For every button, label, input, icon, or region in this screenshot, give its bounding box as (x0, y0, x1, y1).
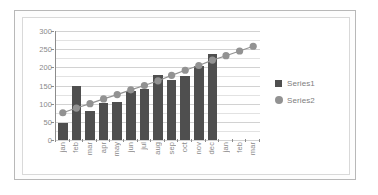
x-tick-label: jan (221, 142, 230, 152)
x-tick-label: feb (235, 142, 244, 153)
x-tick-mark (177, 139, 178, 142)
bar (167, 80, 177, 140)
chart-frame: 050100150200250300 janfebmaraprmayjunjul… (14, 10, 356, 180)
x-tick-mark (245, 139, 246, 142)
legend-label-series2: Series2 (287, 96, 315, 105)
y-tick-mark (51, 122, 54, 123)
y-tick-mark (51, 49, 54, 50)
x-tick-label: feb (71, 142, 80, 153)
bar (180, 76, 190, 140)
y-tick-mark (51, 86, 54, 87)
bar (153, 75, 163, 140)
y-tick-mark (51, 104, 54, 105)
series2-marker (168, 72, 175, 79)
bar (72, 86, 82, 140)
x-tick-label: nov (194, 142, 203, 154)
gridline (56, 67, 260, 68)
x-axis: janfebmaraprmayjunjulaugsepoctnovdecjanf… (55, 142, 259, 174)
x-tick-mark (109, 139, 110, 142)
series2-marker (100, 95, 107, 102)
x-tick-mark (232, 139, 233, 142)
x-tick-mark (96, 139, 97, 142)
x-tick-mark (55, 139, 56, 142)
bar (126, 91, 136, 140)
gridline (56, 58, 260, 59)
chart-plot-container: 050100150200250300 janfebmaraprmayjunjul… (22, 17, 350, 175)
x-tick-mark (69, 139, 70, 142)
x-tick-mark (123, 139, 124, 142)
x-tick-mark (137, 139, 138, 142)
bar (194, 66, 204, 140)
x-tick-label: may (112, 142, 121, 156)
bar (140, 89, 150, 140)
x-tick-label: jul (139, 142, 148, 150)
x-tick-mark (191, 139, 192, 142)
x-tick-label: aug (153, 142, 162, 155)
bar (112, 102, 122, 140)
x-tick-mark (259, 139, 260, 142)
x-tick-label: mar (248, 142, 257, 155)
legend-square-marker-icon (275, 80, 282, 87)
y-axis: 050100150200250300 (23, 31, 52, 140)
x-tick-label: sep (167, 142, 176, 154)
legend-circle-marker-icon (275, 96, 283, 104)
bar (208, 54, 218, 140)
plot-area (55, 31, 260, 141)
y-tick-mark (51, 67, 54, 68)
legend-item-series1: Series1 (275, 76, 349, 90)
x-tick-label: oct (180, 142, 189, 152)
x-tick-mark (205, 139, 206, 142)
x-tick-label: jun (126, 142, 135, 152)
x-tick-label: mar (85, 142, 94, 155)
gridline (56, 49, 260, 50)
x-tick-mark (218, 139, 219, 142)
legend-item-series2: Series2 (275, 93, 349, 107)
y-tick-mark (51, 31, 54, 32)
x-tick-mark (150, 139, 151, 142)
bar (85, 111, 95, 140)
x-tick-mark (164, 139, 165, 142)
gridline (56, 140, 260, 141)
gridline (56, 40, 260, 41)
gridline (56, 31, 260, 32)
legend-label-series1: Series1 (287, 79, 315, 88)
x-tick-label: dec (207, 142, 216, 154)
chart-legend: Series1 Series2 (275, 76, 349, 110)
bar (58, 123, 68, 140)
x-tick-label: jan (58, 142, 67, 152)
y-tick-mark (51, 140, 54, 141)
bar (99, 103, 109, 140)
x-tick-mark (82, 139, 83, 142)
x-tick-label: apr (99, 142, 108, 153)
